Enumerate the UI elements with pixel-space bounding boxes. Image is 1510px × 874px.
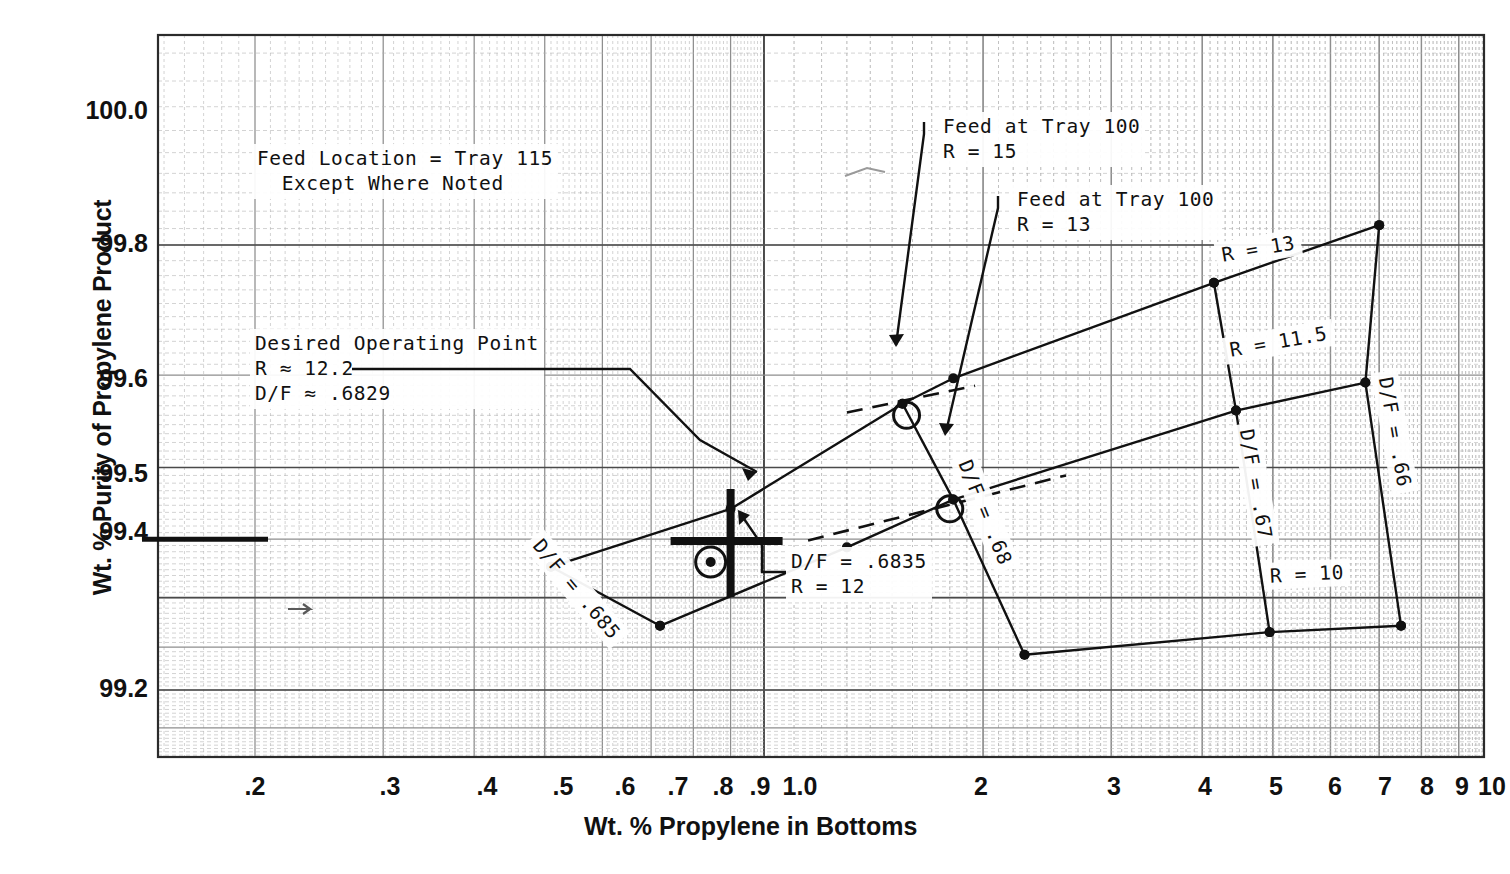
leader-feed-r13: [946, 196, 998, 432]
leader-feed-r15-arrow: [889, 334, 904, 347]
circled-dot-inner: [706, 557, 716, 567]
circle-feed-r13: [937, 496, 963, 522]
stray-mark-2: [288, 604, 310, 614]
leader-feed-r15: [896, 122, 924, 345]
leader-df-6835-arrow: [738, 510, 750, 525]
leader-feed-r13-arrow: [939, 423, 954, 436]
circle-feed-r15: [894, 402, 920, 428]
stray-mark-1: [845, 168, 885, 176]
leader-desired-point: [352, 369, 757, 472]
